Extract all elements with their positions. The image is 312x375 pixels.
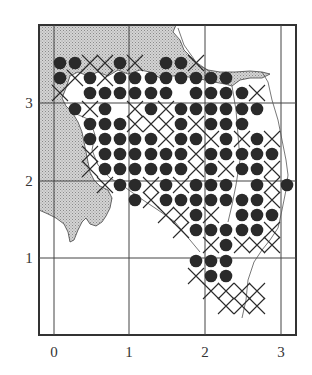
dot-marker xyxy=(145,133,158,146)
dot-marker xyxy=(99,148,112,161)
dot-marker xyxy=(220,103,233,116)
dot-marker xyxy=(251,194,264,207)
dot-marker xyxy=(145,148,158,161)
cross-marker xyxy=(234,298,250,314)
dot-marker xyxy=(220,224,233,237)
dot-marker xyxy=(251,103,264,116)
cross-marker xyxy=(264,131,280,147)
dot-marker xyxy=(114,148,127,161)
dot-marker xyxy=(251,224,264,237)
dot-marker xyxy=(220,194,233,207)
cross-marker xyxy=(249,237,265,253)
dot-marker xyxy=(54,57,67,70)
dot-marker xyxy=(236,148,249,161)
dot-marker xyxy=(129,72,142,85)
dot-marker xyxy=(114,179,127,192)
cross-marker xyxy=(158,116,174,132)
cross-marker xyxy=(143,116,159,132)
dot-marker xyxy=(205,148,218,161)
dot-marker xyxy=(220,148,233,161)
dot-marker xyxy=(99,103,112,116)
dot-marker xyxy=(84,118,97,131)
dot-marker xyxy=(175,72,188,85)
dot-marker xyxy=(99,133,112,146)
dot-marker xyxy=(190,255,203,268)
dot-marker xyxy=(266,209,279,222)
dot-marker xyxy=(236,224,249,237)
dot-marker xyxy=(129,148,142,161)
dot-marker xyxy=(205,163,218,176)
dot-marker xyxy=(205,103,218,116)
cross-marker xyxy=(264,177,280,193)
cross-marker xyxy=(188,116,204,132)
x-tick-0: 0 xyxy=(50,344,58,360)
dot-marker xyxy=(236,103,249,116)
dot-marker xyxy=(84,72,97,85)
dot-marker xyxy=(281,179,294,192)
y-tick-2: 2 xyxy=(25,173,33,189)
cross-marker xyxy=(188,161,204,177)
dot-marker xyxy=(114,57,127,70)
dot-marker xyxy=(145,87,158,100)
cross-marker xyxy=(234,131,250,147)
cross-marker xyxy=(173,177,189,193)
dot-marker xyxy=(145,163,158,176)
cross-marker xyxy=(158,131,174,147)
cross-marker xyxy=(218,161,234,177)
dot-marker xyxy=(84,87,97,100)
dot-marker xyxy=(175,163,188,176)
dot-marker xyxy=(129,163,142,176)
grid-map: 0 1 2 3 3 2 1 xyxy=(0,0,312,375)
dot-marker xyxy=(99,118,112,131)
cross-marker xyxy=(249,283,265,299)
cross-marker xyxy=(218,298,234,314)
dot-marker xyxy=(205,87,218,100)
cross-marker xyxy=(173,222,189,238)
dot-marker xyxy=(175,118,188,131)
dot-marker xyxy=(160,163,173,176)
dot-marker xyxy=(251,148,264,161)
dot-marker xyxy=(190,72,203,85)
dot-marker xyxy=(54,72,67,85)
dot-marker xyxy=(114,87,127,100)
dot-marker xyxy=(220,270,233,283)
cross-marker xyxy=(264,222,280,238)
dot-marker xyxy=(190,103,203,116)
dot-marker xyxy=(236,87,249,100)
dot-marker xyxy=(205,270,218,283)
x-tick-3: 3 xyxy=(277,344,285,360)
dot-marker xyxy=(175,103,188,116)
dot-marker xyxy=(99,87,112,100)
dot-marker xyxy=(205,179,218,192)
dot-marker xyxy=(205,72,218,85)
dot-marker xyxy=(160,148,173,161)
dot-marker xyxy=(99,163,112,176)
dot-marker xyxy=(205,224,218,237)
dot-marker xyxy=(220,133,233,146)
dot-marker xyxy=(236,209,249,222)
cross-marker xyxy=(143,177,159,193)
dot-marker xyxy=(160,179,173,192)
dot-marker xyxy=(205,194,218,207)
dot-marker xyxy=(69,57,82,70)
dot-marker xyxy=(145,72,158,85)
dot-marker xyxy=(251,209,264,222)
cross-marker xyxy=(218,283,234,299)
dot-marker xyxy=(236,163,249,176)
x-tick-2: 2 xyxy=(201,344,209,360)
dot-marker xyxy=(190,194,203,207)
dot-marker xyxy=(220,255,233,268)
dot-marker xyxy=(190,209,203,222)
dot-marker xyxy=(160,87,173,100)
dot-marker xyxy=(220,87,233,100)
dot-marker xyxy=(205,255,218,268)
dot-marker xyxy=(114,72,127,85)
dot-marker xyxy=(220,179,233,192)
dot-marker xyxy=(129,87,142,100)
dot-marker xyxy=(69,103,82,116)
dot-marker xyxy=(190,179,203,192)
cross-marker xyxy=(234,237,250,253)
cross-marker xyxy=(264,192,280,208)
dot-marker xyxy=(160,194,173,207)
dot-marker xyxy=(190,224,203,237)
